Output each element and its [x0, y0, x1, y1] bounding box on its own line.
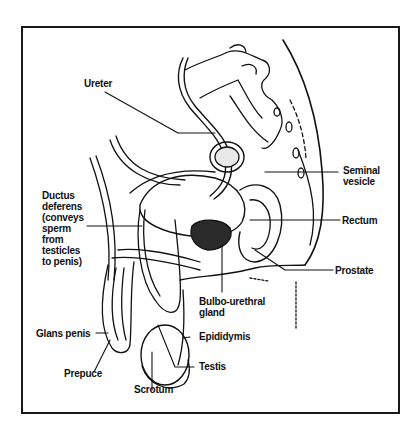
label-seminal-vesicle: Seminal vesicle	[343, 165, 380, 187]
label-prostate: Prostate	[335, 265, 373, 276]
label-epididymis: Epididymis	[199, 331, 250, 342]
label-scrotum: Scrotum	[134, 384, 173, 395]
label-testis: Testis	[199, 361, 226, 372]
label-prepuce: Prepuce	[64, 368, 102, 379]
label-rectum: Rectum	[342, 215, 377, 226]
label-glans-penis: Glans penis	[36, 328, 91, 339]
label-ductus-deferens: Ductus deferens (conveys sperm from test…	[42, 190, 84, 267]
label-bulbo-urethral-gland: Bulbo-urethral gland	[199, 296, 265, 318]
label-ureter: Ureter	[84, 78, 112, 89]
